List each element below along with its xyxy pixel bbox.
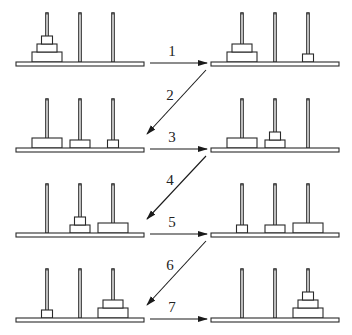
peg-tip	[79, 12, 82, 15]
disk-M	[265, 225, 285, 233]
disk-S	[270, 132, 281, 140]
hanoi-state-panel	[211, 268, 339, 322]
disk-S	[303, 292, 314, 300]
peg-tip	[307, 98, 310, 101]
move-step-label: 1	[168, 43, 176, 59]
hanoi-state-panel	[211, 98, 339, 152]
peg-tip	[46, 183, 49, 186]
disk-S	[108, 140, 119, 148]
peg-tip	[241, 12, 244, 15]
disk-M	[103, 300, 123, 308]
peg-tip	[274, 12, 277, 15]
move-arrow-7: 7	[150, 299, 207, 319]
disk-L	[293, 308, 323, 318]
peg	[241, 269, 244, 318]
disk-L	[32, 138, 62, 148]
base-platform	[211, 62, 339, 66]
disk-M	[298, 300, 318, 308]
move-arrow-5: 5	[150, 214, 207, 234]
peg-tip	[79, 183, 82, 186]
hanoi-state-panel	[211, 183, 339, 237]
move-step-label: 5	[168, 214, 176, 230]
peg-tip	[112, 12, 115, 15]
disk-S	[42, 36, 53, 44]
peg-tip	[112, 268, 115, 271]
peg-tip	[241, 183, 244, 186]
disk-L	[98, 223, 128, 233]
tower-of-hanoi-diagram: 1234567	[0, 0, 352, 335]
move-arrow-2: 2	[147, 70, 206, 134]
peg-tip	[241, 268, 244, 271]
hanoi-state-panel	[16, 98, 144, 152]
disk-M	[70, 140, 90, 148]
base-platform	[16, 148, 144, 152]
disk-M	[232, 44, 252, 52]
disk-S	[42, 310, 53, 318]
disk-L	[227, 52, 257, 62]
base-platform	[16, 62, 144, 66]
peg	[79, 269, 82, 318]
peg-tip	[241, 98, 244, 101]
disk-M	[37, 44, 57, 52]
peg	[79, 13, 82, 62]
base-platform	[16, 233, 144, 237]
peg-tip	[112, 98, 115, 101]
peg-tip	[79, 268, 82, 271]
peg	[46, 184, 49, 233]
move-arrow-6: 6	[147, 241, 206, 305]
peg	[112, 13, 115, 62]
peg	[307, 99, 310, 148]
move-arrows: 1234567	[147, 43, 207, 319]
move-arrow-3: 3	[150, 129, 207, 149]
peg-tip	[79, 98, 82, 101]
peg-tip	[274, 268, 277, 271]
peg-tip	[112, 183, 115, 186]
hanoi-state-panel	[16, 12, 144, 66]
disk-L	[293, 223, 323, 233]
base-platform	[211, 318, 339, 322]
disk-L	[32, 52, 62, 62]
peg-tip	[307, 12, 310, 15]
move-step-label: 4	[166, 172, 174, 188]
move-step-label: 7	[168, 299, 176, 315]
base-platform	[16, 318, 144, 322]
move-step-label: 6	[166, 257, 174, 273]
move-step-label: 2	[166, 87, 174, 103]
arrow-line	[147, 241, 206, 305]
base-platform	[211, 148, 339, 152]
peg-tip	[274, 183, 277, 186]
peg-tip	[46, 268, 49, 271]
disk-L	[227, 138, 257, 148]
peg	[274, 13, 277, 62]
arrow-line	[147, 70, 206, 134]
disk-S	[237, 225, 248, 233]
peg-tip	[307, 268, 310, 271]
peg-tip	[274, 98, 277, 101]
disk-M	[265, 140, 285, 148]
peg-tip	[307, 183, 310, 186]
move-step-label: 3	[168, 129, 176, 145]
arrow-line	[147, 156, 206, 219]
hanoi-state-panel	[211, 12, 339, 66]
hanoi-state-panel	[16, 183, 144, 237]
disk-S	[303, 54, 314, 62]
disk-S	[75, 217, 86, 225]
disk-M	[70, 225, 90, 233]
disk-L	[98, 308, 128, 318]
peg-tip	[46, 12, 49, 15]
hanoi-state-panel	[16, 268, 144, 322]
peg	[274, 269, 277, 318]
base-platform	[211, 233, 339, 237]
state-panels	[16, 12, 339, 322]
peg-tip	[46, 98, 49, 101]
move-arrow-4: 4	[147, 156, 206, 219]
move-arrow-1: 1	[150, 43, 207, 63]
